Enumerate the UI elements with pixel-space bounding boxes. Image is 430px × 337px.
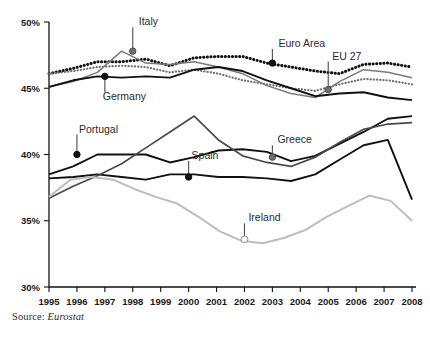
x-tick-label: 2005	[318, 296, 340, 307]
x-tick-label: 2006	[346, 296, 367, 307]
series-marker-germany	[102, 73, 108, 79]
x-tick-label: 1998	[122, 296, 143, 307]
chart-container: 30%35%40%45%50% 199519961997199819992000…	[0, 0, 430, 337]
series-marker-greece	[269, 154, 275, 160]
series-label-spain: Spain	[192, 149, 219, 161]
y-tick-label: 40%	[21, 149, 41, 160]
series-marker-ireland	[241, 236, 248, 243]
y-tick-label: 45%	[21, 83, 41, 94]
series-line-ireland	[49, 177, 412, 243]
chart-axes	[44, 22, 416, 292]
series-marker-italy	[130, 48, 136, 54]
x-axis-tick-labels: 1995199619971998199920002001200220032004…	[38, 296, 422, 307]
x-tick-label: 1996	[66, 296, 87, 307]
series-label-greece: Greece	[277, 133, 312, 145]
x-tick-label: 2007	[374, 296, 395, 307]
x-tick-label: 1997	[94, 296, 115, 307]
y-axis-tick-labels: 30%35%40%45%50%	[21, 17, 41, 293]
x-tick-label: 1999	[150, 296, 171, 307]
series-label-italy: Italy	[139, 15, 159, 27]
source-name: Eurostat	[48, 311, 85, 322]
series-label-portugal: Portugal	[79, 123, 118, 135]
series-label-eu-27: EU 27	[332, 50, 361, 62]
series-annotations: ItalyGermanyEuro AreaEU 27PortugalSpainG…	[74, 15, 362, 243]
series-marker-portugal	[74, 151, 80, 157]
data-series-group	[49, 51, 412, 243]
y-tick-label: 50%	[21, 17, 41, 28]
x-tick-label: 2001	[206, 296, 228, 307]
source-note: Source: Eurostat	[12, 311, 84, 322]
y-tick-label: 30%	[21, 282, 41, 293]
x-tick-label: 2000	[178, 296, 199, 307]
series-label-ireland: Ireland	[248, 211, 280, 223]
line-chart: 30%35%40%45%50% 199519961997199819992000…	[0, 0, 430, 337]
series-marker-euro-area	[269, 60, 275, 66]
series-label-germany: Germany	[103, 90, 147, 102]
y-tick-label: 35%	[21, 215, 41, 226]
series-marker-spain	[185, 174, 191, 180]
x-tick-label: 2008	[401, 296, 422, 307]
x-tick-label: 1995	[38, 296, 60, 307]
x-tick-label: 2004	[290, 296, 312, 307]
x-tick-label: 2003	[262, 296, 283, 307]
x-tick-label: 2002	[234, 296, 255, 307]
series-marker-eu-27	[325, 86, 331, 92]
series-label-euro-area: Euro Area	[278, 37, 325, 49]
source-prefix: Source:	[12, 311, 45, 322]
